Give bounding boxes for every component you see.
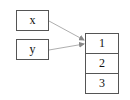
arrow-x-to-array xyxy=(49,21,84,40)
reference-arrows xyxy=(0,0,130,100)
arrow-y-to-array xyxy=(49,44,84,50)
